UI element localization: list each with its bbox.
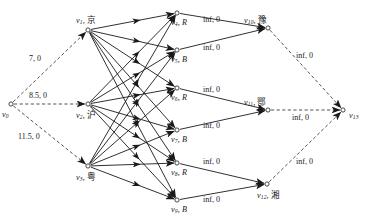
edge-v1-v9 — [89, 33, 175, 198]
node-label-v12: v12, 湘 — [257, 191, 280, 201]
edge-direction-marker — [136, 74, 137, 75]
edge-label-v4-v10: inf, 0 — [203, 16, 220, 24]
edge-v12-v13 — [269, 112, 341, 182]
edge-direction-marker — [136, 155, 137, 156]
node-label-v3: v3, 粤 — [76, 173, 96, 183]
node-label-v1: v1, 京 — [76, 16, 96, 26]
edge-label-v0-v2: 8.5, 0 — [29, 92, 47, 100]
edge-label-v0-v1: 7, 0 — [29, 55, 41, 63]
node-v12[interactable] — [265, 182, 269, 186]
edge-v5-v10 — [180, 29, 265, 50]
node-label-v6: v6, R — [171, 94, 187, 103]
node-v0[interactable] — [9, 102, 13, 106]
edge-v9-v12 — [180, 185, 264, 200]
edge-v7-v11 — [180, 111, 265, 130]
edge-label-v10-v13: inf, 0 — [296, 52, 313, 60]
edge-v8-v12 — [180, 164, 264, 184]
edge-direction-marker — [136, 61, 137, 62]
edge-label-v0-v3: 11.5, 0 — [18, 133, 40, 141]
node-v6[interactable] — [175, 86, 179, 90]
node-v13[interactable] — [341, 108, 345, 112]
node-v2[interactable] — [86, 102, 90, 106]
edge-v3-v7 — [91, 131, 174, 165]
node-v11[interactable] — [266, 108, 270, 112]
node-v4[interactable] — [175, 11, 179, 15]
edge-direction-marker — [136, 123, 137, 124]
node-label-v5: v5, B — [171, 56, 187, 65]
edge-label-v5-v10: inf, 0 — [203, 44, 220, 52]
edge-v3-v8 — [91, 163, 174, 166]
node-label-v9: v9, B — [171, 206, 187, 215]
edge-label-v12-v13: inf, 0 — [296, 158, 313, 166]
edge-v0-v1 — [13, 32, 86, 102]
node-label-v11: v11, 鄂 — [244, 98, 267, 108]
graph-canvas — [0, 0, 378, 224]
edge-v1-v4 — [91, 14, 174, 30]
edge-direction-marker — [136, 54, 137, 55]
edge-label-v9-v12: inf, 0 — [203, 196, 220, 204]
edge-label-v11-v13: inf, 0 — [292, 114, 309, 122]
edge-direction-marker — [136, 136, 137, 137]
network-flow-diagram: v0v1, 京v2, 沪v3, 粤v4, Rv5, Bv6, Rv7, Bv8,… — [0, 0, 378, 224]
edge-v2-v9 — [90, 106, 175, 198]
edge-label-v8-v12: inf, 0 — [203, 158, 220, 166]
edge-label-v6-v11: inf, 0 — [203, 86, 220, 94]
node-v8[interactable] — [175, 161, 179, 165]
node-v3[interactable] — [86, 164, 90, 168]
node-v7[interactable] — [175, 128, 179, 132]
node-v5[interactable] — [175, 48, 179, 52]
edge-direction-marker — [136, 102, 137, 103]
edge-label-v7-v11: inf, 0 — [203, 122, 220, 130]
node-v1[interactable] — [86, 28, 90, 32]
node-label-v10: v10, 豫 — [244, 16, 267, 26]
node-label-v8: v8, R — [171, 169, 187, 178]
node-label-v2: v2, 沪 — [76, 111, 96, 121]
node-label-v7: v7, B — [171, 136, 187, 145]
node-label-v13: v13 — [349, 112, 359, 121]
edge-direction-marker — [136, 82, 137, 84]
node-v9[interactable] — [175, 198, 179, 202]
node-label-v0: v0 — [2, 111, 9, 120]
edge-v10-v13 — [270, 30, 341, 108]
node-label-v4: v4, R — [171, 19, 187, 28]
node-v10[interactable] — [266, 26, 270, 30]
